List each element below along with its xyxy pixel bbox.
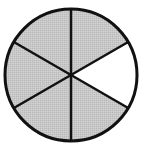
fraction-circle-diagram bbox=[0, 0, 142, 152]
pie-svg bbox=[0, 0, 142, 152]
